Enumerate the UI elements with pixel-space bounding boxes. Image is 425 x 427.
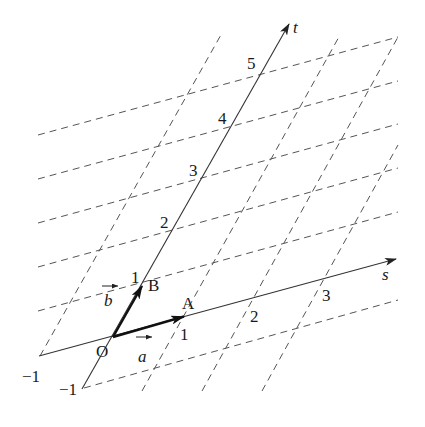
grid-line-t-2 (38, 168, 398, 267)
grid-lines-constant-t (38, 37, 398, 388)
point-a-label: A (182, 294, 195, 313)
s-axis-label: s (382, 265, 389, 284)
point-b-label: B (148, 276, 159, 295)
grid-line-t--1 (84, 300, 398, 388)
vector-b-label: b (104, 291, 113, 310)
grid-line-s-2 (202, 37, 398, 391)
grid-line-t-4 (38, 81, 398, 179)
origin-label: O (96, 342, 108, 361)
t-tick-label-2: 2 (160, 213, 169, 232)
grid-line-t-3 (38, 124, 398, 223)
s-axis (39, 259, 396, 356)
axis-tick-labels: −1123−112345 (22, 54, 331, 399)
s-tick-label-1: 1 (180, 325, 189, 344)
grid-line-s-1 (142, 35, 340, 391)
oblique-coordinate-diagram: −1123−112345 O A B a b s t (0, 0, 425, 427)
grid-line-t-1 (38, 212, 398, 311)
grid-lines-constant-s (40, 33, 398, 391)
t-tick-label-3: 3 (189, 161, 198, 180)
vector-a-label: a (138, 347, 147, 366)
s-tick-label-2: 2 (250, 307, 259, 326)
s-tick-label--1: −1 (22, 367, 40, 386)
t-axis-label: t (293, 18, 299, 37)
t-tick-label-1: 1 (131, 268, 140, 287)
diagram-canvas: −1123−112345 O A B a b s t (0, 0, 425, 427)
s-tick-label-3: 3 (322, 286, 331, 305)
t-tick-label--1: −1 (59, 380, 77, 399)
t-tick-label-4: 4 (218, 109, 227, 128)
t-tick-label-5: 5 (247, 54, 256, 73)
grid-line-s-3 (262, 145, 398, 391)
